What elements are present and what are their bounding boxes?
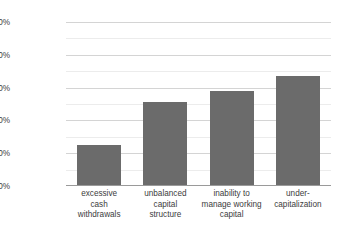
bar [143, 102, 187, 186]
bar-series [66, 22, 331, 186]
x-axis-label-line: excessive [62, 189, 136, 200]
bar [210, 91, 254, 186]
y-axis-tick-label: 80% [0, 50, 10, 59]
bar [77, 145, 121, 186]
x-axis-label-line: cash [62, 200, 136, 211]
x-axis-label-line: capitalization [261, 200, 335, 211]
bar-chart: Percent of bankrupt companies 0%20%40%60… [0, 0, 346, 234]
y-axis-tick-label: 100% [0, 18, 10, 27]
x-axis-label-line: inability to [195, 189, 269, 200]
x-axis-line [66, 185, 331, 186]
x-axis-category-label: under-capitalization [261, 189, 335, 210]
x-axis-category-label: inability tomanage workingcapital [195, 189, 269, 221]
x-axis-category-label: excessivecashwithdrawals [62, 189, 136, 221]
x-axis-category-labels: excessivecashwithdrawalsunbalancedcapita… [66, 189, 331, 231]
plot-area [66, 22, 331, 186]
x-axis-label-line: withdrawals [62, 210, 136, 221]
y-axis-tick-label: 20% [0, 149, 10, 158]
x-axis-label-line: manage working [195, 200, 269, 211]
bar [276, 76, 320, 186]
x-axis-label-line: structure [128, 210, 202, 221]
x-axis-label-line: unbalanced [128, 189, 202, 200]
y-axis-tick-label: 60% [0, 83, 10, 92]
y-axis-tick-label: 40% [0, 116, 10, 125]
x-axis-label-line: capital [128, 200, 202, 211]
x-axis-category-label: unbalancedcapitalstructure [128, 189, 202, 221]
y-axis-tick-label: 0% [0, 182, 10, 191]
x-axis-label-line: capital [195, 210, 269, 221]
x-axis-label-line: under- [261, 189, 335, 200]
